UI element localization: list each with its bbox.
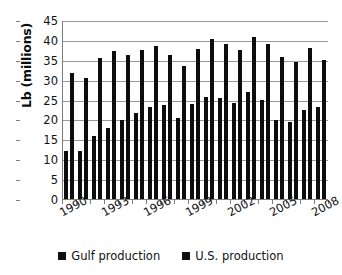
bar-group [314, 21, 328, 200]
bar [176, 118, 180, 200]
bar [92, 136, 96, 200]
y-axis-tick-mark [16, 200, 20, 201]
bars-layer [62, 21, 328, 200]
bar [308, 48, 312, 200]
y-axis-tick-label: 30 [24, 74, 58, 88]
bar-group [62, 21, 76, 200]
y-axis-tick-mark [16, 160, 20, 161]
bar [238, 50, 242, 200]
bar [252, 37, 256, 200]
bar [294, 62, 298, 200]
y-axis-tick-label: 15 [24, 133, 58, 147]
bar [322, 60, 326, 200]
legend-label-gulf-production: Gulf production [71, 249, 160, 263]
bar [148, 107, 152, 200]
bar [210, 39, 214, 200]
y-axis-tick-mark [16, 101, 20, 102]
bar [246, 92, 250, 200]
bar-group [230, 21, 244, 200]
bar [232, 103, 236, 200]
y-axis-tick-mark [16, 120, 20, 121]
bar [140, 50, 144, 200]
y-axis-tick-mark [16, 61, 20, 62]
bar [204, 97, 208, 200]
bar-group [160, 21, 174, 200]
y-axis-tick-label: 25 [24, 94, 58, 108]
y-axis-tick-mark [16, 180, 20, 181]
bar [182, 66, 186, 200]
y-axis-tick-label: 20 [24, 113, 58, 127]
plot-frame [62, 21, 328, 200]
bar-chart: Lb (millions) 051015202530354045 1990199… [0, 0, 342, 275]
x-axis-tick-labels: 1990199319961999200220052008 [62, 203, 328, 237]
y-axis-tick-label: 35 [24, 54, 58, 68]
y-axis-tick-mark [16, 21, 20, 22]
legend-item-us-production: U.S. production [182, 249, 283, 263]
bar-group [76, 21, 90, 200]
chart-legend: Gulf production U.S. production [0, 249, 342, 263]
y-axis-tick-label: 10 [24, 153, 58, 167]
bar [196, 49, 200, 200]
bar [218, 98, 222, 200]
bar [266, 44, 270, 200]
bar [84, 78, 88, 201]
y-axis-tick-label: 0 [24, 193, 58, 207]
y-axis-line [62, 21, 63, 200]
bar [64, 151, 68, 200]
y-axis-tick-label: 40 [24, 34, 58, 48]
bar-group [104, 21, 118, 200]
bar [260, 100, 264, 200]
bar [70, 73, 74, 200]
bar [302, 110, 306, 200]
bar-group [202, 21, 216, 200]
bar [316, 107, 320, 200]
legend-item-gulf-production: Gulf production [58, 249, 160, 263]
y-axis-tick-label: 5 [24, 173, 58, 187]
y-axis-tick-label: 45 [24, 14, 58, 28]
y-axis-tick-mark [16, 81, 20, 82]
y-axis-tick-mark [16, 41, 20, 42]
bar [106, 128, 110, 200]
legend-label-us-production: U.S. production [195, 249, 283, 263]
bar-group [258, 21, 272, 200]
bar [120, 120, 124, 200]
y-axis-tick-labels: 051015202530354045 [20, 21, 58, 200]
bar-group [188, 21, 202, 200]
bar [168, 55, 172, 200]
plot-area [62, 21, 328, 200]
bar-group [174, 21, 188, 200]
bar-group [244, 21, 258, 200]
bar-group [272, 21, 286, 200]
legend-swatch-icon [58, 252, 66, 260]
bar-group [132, 21, 146, 200]
bar-group [90, 21, 104, 200]
bar-group [216, 21, 230, 200]
bar [288, 122, 292, 200]
bar [190, 104, 194, 200]
bar [224, 44, 228, 200]
bar [154, 46, 158, 200]
bar [162, 105, 166, 200]
bar [274, 120, 278, 200]
bar-group [286, 21, 300, 200]
y-axis-tick-mark [16, 140, 20, 141]
bar-group [118, 21, 132, 200]
bar [112, 51, 116, 200]
bar [98, 58, 102, 200]
bar-group [146, 21, 160, 200]
legend-swatch-icon [182, 252, 190, 260]
bar [134, 113, 138, 201]
bar [280, 57, 284, 200]
bar-group [300, 21, 314, 200]
bar [126, 55, 130, 200]
